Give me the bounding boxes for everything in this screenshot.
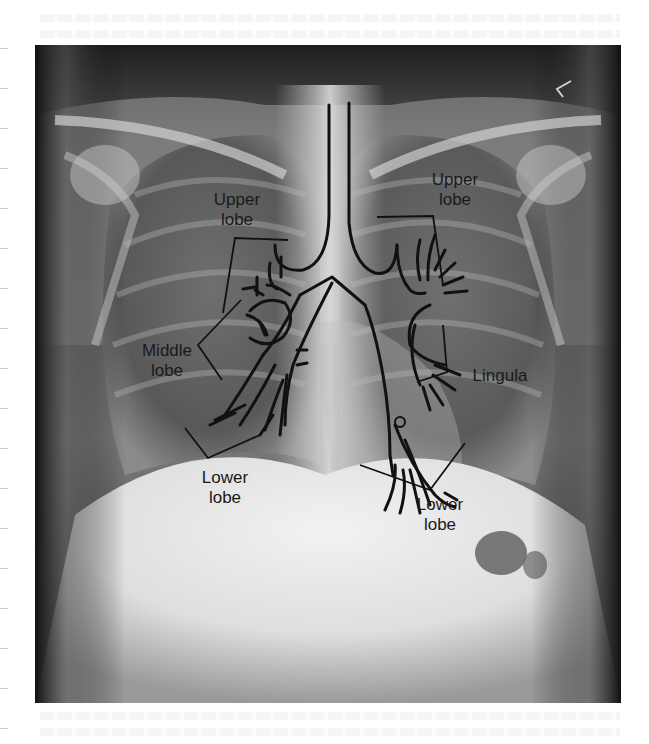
bleed-through-text	[40, 30, 620, 38]
margin-tick	[0, 288, 8, 289]
margin-tick	[0, 208, 8, 209]
margin-tick	[0, 168, 8, 169]
margin-tick	[0, 408, 8, 409]
margin-tick	[0, 728, 8, 729]
margin-tick	[0, 528, 8, 529]
bleed-through-text	[40, 712, 620, 720]
margin-tick	[0, 248, 8, 249]
bleed-through-text	[40, 14, 620, 22]
label-right-lower-lobe: Lower lobe	[185, 468, 265, 508]
margin-tick	[0, 648, 8, 649]
margin-tick	[0, 448, 8, 449]
margin-tick	[0, 488, 8, 489]
label-right-upper-lobe: Upper lobe	[197, 190, 277, 230]
margin-tick	[0, 368, 8, 369]
margin-tick	[0, 128, 8, 129]
margin-tick	[0, 48, 8, 49]
margin-tick	[0, 568, 8, 569]
margin-tick	[0, 688, 8, 689]
chest-xray-figure: Upper lobe Middle lobe Lower lobe Upper …	[35, 45, 621, 703]
label-left-lower-lobe: Lower lobe	[400, 495, 480, 535]
margin-tick	[0, 88, 8, 89]
bleed-through-text	[40, 728, 620, 736]
margin-tick	[0, 328, 8, 329]
label-lingula: Lingula	[460, 366, 540, 386]
label-left-upper-lobe: Upper lobe	[415, 170, 495, 210]
margin-tick	[0, 608, 8, 609]
label-right-middle-lobe: Middle lobe	[127, 341, 207, 381]
